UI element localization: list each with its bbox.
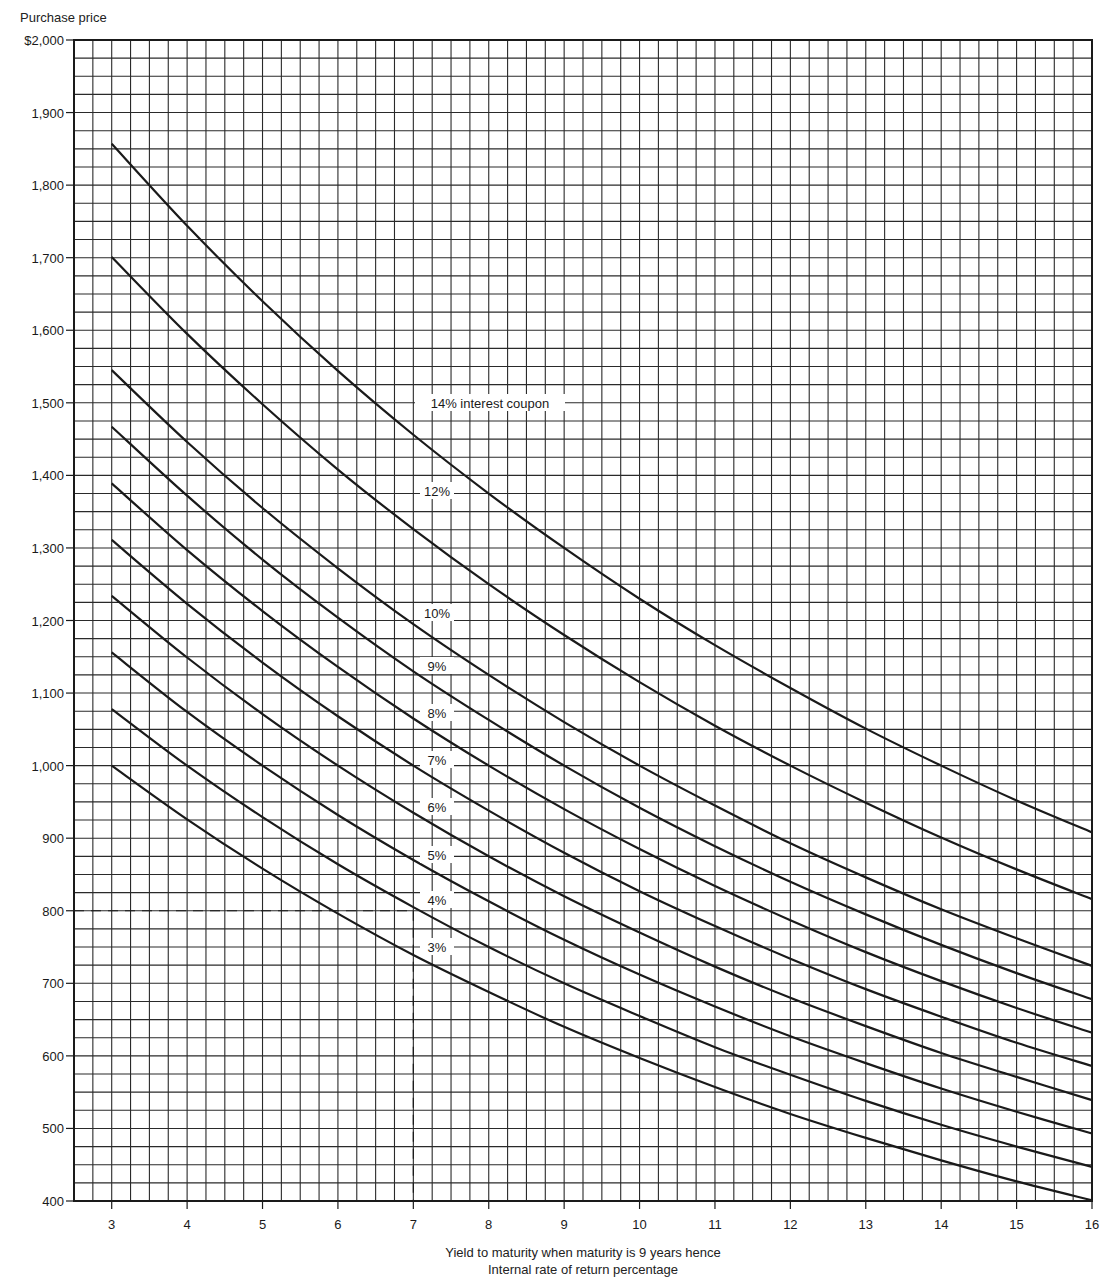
x-tick-label: 3 xyxy=(108,1217,115,1232)
x-axis-subtitle: Internal rate of return percentage xyxy=(0,1262,1115,1277)
y-tick-label: 1,500 xyxy=(31,396,64,411)
curve-label: 7% xyxy=(428,753,447,768)
curve-label: 10% xyxy=(424,606,450,621)
y-tick-label: 1,600 xyxy=(31,323,64,338)
y-tick-label: 1,200 xyxy=(31,614,64,629)
curve-label: 5% xyxy=(428,848,447,863)
y-tick-label: 1,100 xyxy=(31,686,64,701)
y-tick-label: 1,800 xyxy=(31,178,64,193)
x-tick-label: 7 xyxy=(410,1217,417,1232)
y-tick-label: 500 xyxy=(42,1121,64,1136)
x-tick-label: 9 xyxy=(561,1217,568,1232)
y-tick-label: $2,000 xyxy=(24,33,64,48)
curve-label: 12% xyxy=(424,484,450,499)
curve-label: 4% xyxy=(428,893,447,908)
y-tick-label: 700 xyxy=(42,976,64,991)
curve-label: 9% xyxy=(428,659,447,674)
bond-price-chart: $2,0001,9001,8001,7001,6001,5001,4001,30… xyxy=(0,0,1115,1240)
y-tick-label: 1,900 xyxy=(31,106,64,121)
x-tick-label: 11 xyxy=(708,1217,722,1232)
x-tick-label: 16 xyxy=(1085,1217,1099,1232)
x-tick-label: 14 xyxy=(934,1217,948,1232)
x-tick-label: 12 xyxy=(783,1217,797,1232)
y-tick-label: 400 xyxy=(42,1194,64,1209)
y-tick-label: 1,000 xyxy=(31,759,64,774)
x-axis-title: Yield to maturity when maturity is 9 yea… xyxy=(0,1245,1115,1260)
x-tick-label: 6 xyxy=(334,1217,341,1232)
y-tick-label: 1,700 xyxy=(31,251,64,266)
x-tick-label: 4 xyxy=(183,1217,190,1232)
curve-label: 14% interest coupon xyxy=(431,396,550,411)
grid-lines xyxy=(74,40,1092,1201)
y-tick-label: 1,300 xyxy=(31,541,64,556)
x-tick-label: 5 xyxy=(259,1217,266,1232)
x-tick-label: 10 xyxy=(632,1217,646,1232)
y-tick-label: 800 xyxy=(42,904,64,919)
curve-label: 8% xyxy=(428,706,447,721)
x-tick-label: 8 xyxy=(485,1217,492,1232)
y-tick-label: 900 xyxy=(42,831,64,846)
curve-label: 6% xyxy=(428,800,447,815)
curve-label: 3% xyxy=(428,940,447,955)
y-tick-label: 1,400 xyxy=(31,468,64,483)
x-tick-label: 15 xyxy=(1009,1217,1023,1232)
x-tick-label: 13 xyxy=(859,1217,873,1232)
y-tick-label: 600 xyxy=(42,1049,64,1064)
